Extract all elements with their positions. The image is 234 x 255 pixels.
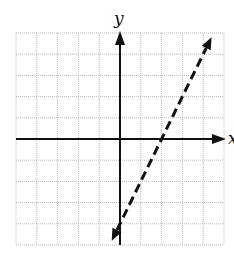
x-axis-label: x xyxy=(228,128,234,148)
y-axis-label: y xyxy=(113,8,124,28)
coordinate-plane: y x xyxy=(0,0,234,255)
